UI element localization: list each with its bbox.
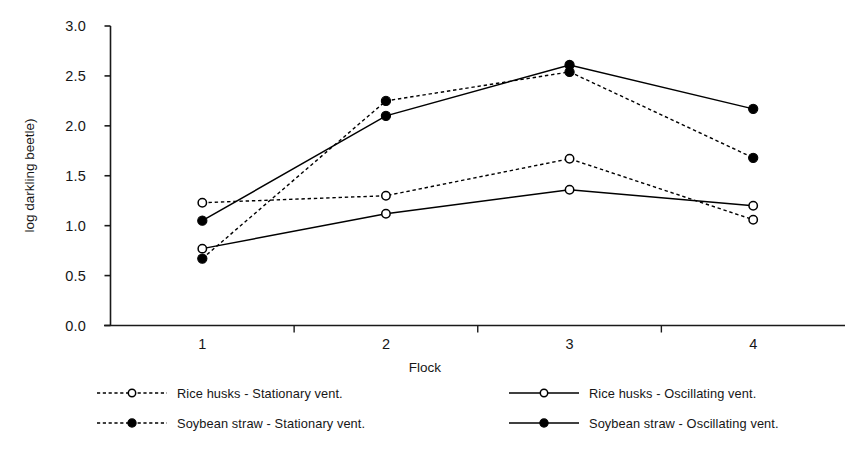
chart-figure: 0.00.51.01.52.02.53.0 1234 log darkling …: [0, 0, 850, 458]
data-point-filled: [565, 60, 574, 69]
legend-swatch-dashed-open-circle: [96, 386, 168, 400]
legend-swatch-solid-open-circle: [508, 386, 580, 400]
series-line: [202, 65, 753, 221]
legend-swatch-dashed-filled-circle: [96, 416, 168, 430]
y-axis-tick-label: 0.5: [40, 268, 86, 284]
data-point-filled: [749, 153, 758, 162]
x-axis-tick-label: 3: [550, 336, 590, 352]
legend-item-soybean-straw-oscillating: Soybean straw - Oscillating vent.: [508, 412, 779, 434]
data-point-open: [565, 186, 573, 194]
legend-item-rice-husks-oscillating: Rice husks - Oscillating vent.: [508, 382, 756, 404]
y-axis-tick-label: 3.0: [40, 18, 86, 34]
data-point-filled: [198, 254, 207, 263]
data-point-open: [749, 202, 757, 210]
data-point-filled: [198, 216, 207, 225]
y-axis-tick-label: 2.5: [40, 68, 86, 84]
y-axis-tick-label: 2.0: [40, 118, 86, 134]
chart-legend: Rice husks - Stationary vent. Rice husks…: [0, 380, 850, 442]
data-point-filled: [749, 104, 758, 113]
legend-label: Rice husks - Stationary vent.: [177, 386, 343, 401]
y-axis-ticks: [105, 26, 111, 326]
legend-item-rice-husks-stationary: Rice husks - Stationary vent.: [96, 382, 343, 404]
legend-label: Soybean straw - Oscillating vent.: [589, 416, 779, 431]
data-point-open: [198, 199, 206, 207]
x-axis-tick-label: 1: [182, 336, 222, 352]
y-axis-tick-label: 1.5: [40, 168, 86, 184]
x-axis-ticks: [294, 326, 661, 333]
x-axis-title: Flock: [0, 360, 850, 375]
axis-lines: [104, 26, 845, 326]
data-point-open: [382, 192, 390, 200]
legend-label: Soybean straw - Stationary vent.: [177, 416, 365, 431]
data-point-open: [749, 215, 757, 223]
y-axis-title: log darkling beetle): [22, 76, 37, 276]
series-line: [202, 159, 753, 220]
x-axis-tick-label: 4: [733, 336, 773, 352]
series-line: [202, 72, 753, 259]
y-axis-tick-label: 0.0: [40, 318, 86, 334]
data-point-open: [198, 244, 206, 252]
legend-swatch-solid-filled-circle: [508, 416, 580, 430]
series-line: [202, 190, 753, 249]
y-axis-tick-label: 1.0: [40, 218, 86, 234]
data-point-filled: [381, 96, 390, 105]
legend-label: Rice husks - Oscillating vent.: [589, 386, 756, 401]
data-point-filled: [381, 111, 390, 120]
series-lines: [202, 65, 753, 259]
x-axis-tick-label: 2: [366, 336, 406, 352]
legend-item-soybean-straw-stationary: Soybean straw - Stationary vent.: [96, 412, 365, 434]
data-point-open: [565, 155, 573, 163]
data-point-open: [382, 209, 390, 217]
